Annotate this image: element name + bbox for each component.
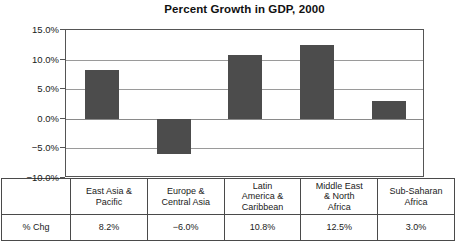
table-category-header: LatinAmerica &Caribbean [224, 179, 301, 215]
table-value-cell: 8.2% [71, 215, 148, 241]
y-axis-tick-mark [60, 177, 65, 178]
chart-title: Percent Growth in GDP, 2000 [65, 3, 424, 15]
bar [85, 70, 119, 119]
table-value-cell: −6.0% [147, 215, 224, 241]
table-category-header: East Asia &Pacific [71, 179, 148, 215]
y-axis-tick-mark [60, 59, 65, 60]
y-axis-tick-label: 0.0% [7, 112, 59, 123]
table-category-header-line: Central Asia [150, 197, 222, 208]
table-category-header-line: Europe & [150, 186, 222, 197]
table-category-header: Europe &Central Asia [147, 179, 224, 215]
table-corner-blank [2, 179, 71, 215]
table-header-row: East Asia &PacificEurope &Central AsiaLa… [2, 179, 455, 215]
data-table: East Asia &PacificEurope &Central AsiaLa… [1, 178, 455, 241]
y-axis-tick-label: −5.0% [7, 142, 59, 153]
table-category-header: Sub-SaharanAfrica [378, 179, 455, 215]
bar-slot [210, 30, 282, 176]
table-category-header-line: Sub-Saharan [380, 186, 452, 197]
y-axis-tick-mark [60, 118, 65, 119]
bars-layer [66, 30, 423, 176]
y-axis-tick-mark [60, 29, 65, 30]
table-category-header-line: Africa [303, 202, 375, 213]
y-axis-tick-mark [60, 147, 65, 148]
table-value-cell: 3.0% [378, 215, 455, 241]
bar [157, 119, 191, 155]
table-category-header-line: Caribbean [227, 202, 299, 213]
bar-slot [138, 30, 210, 176]
y-axis-tick-label: 5.0% [7, 83, 59, 94]
bar-slot [66, 30, 138, 176]
y-axis-tick-label: 15.0% [7, 24, 59, 35]
plot-area [65, 29, 424, 177]
table-category-header-line: East Asia & [73, 186, 145, 197]
bar-slot [281, 30, 353, 176]
table-category-header-line: America & [227, 191, 299, 202]
bar [300, 45, 334, 119]
bar [228, 55, 262, 119]
table-category-header-line: & North [303, 191, 375, 202]
table-category-header-line: Middle East [303, 181, 375, 192]
table-category-header-line: Latin [227, 181, 299, 192]
table-value-cell: 12.5% [301, 215, 378, 241]
table-category-header-line: Pacific [73, 197, 145, 208]
bar-slot [353, 30, 425, 176]
y-axis-tick-label: 10.0% [7, 53, 59, 64]
bar [372, 101, 406, 119]
table-row: % Chg 8.2%−6.0%10.8%12.5%3.0% [2, 215, 455, 241]
table-category-header: Middle East& NorthAfrica [301, 179, 378, 215]
table-value-cell: 10.8% [224, 215, 301, 241]
y-axis-tick-label: −10.0% [7, 172, 59, 183]
table-row-label: % Chg [2, 215, 71, 241]
table-category-header-line: Africa [380, 197, 452, 208]
y-axis-tick-mark [60, 88, 65, 89]
